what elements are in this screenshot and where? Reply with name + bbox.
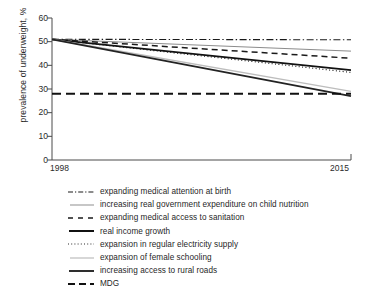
- legend-item: expanding medical attention at birth: [68, 185, 368, 198]
- light-gray-line-swatch: [68, 252, 94, 264]
- legend-label: increasing real government expenditure o…: [100, 200, 309, 209]
- legend-item: MDG: [68, 277, 368, 289]
- legend-label: expanding medical attention at birth: [100, 187, 231, 196]
- thick-solid-line-swatch: [68, 225, 94, 237]
- data-series-group: [52, 39, 351, 96]
- legend-label: expanding medical access to sanitation: [100, 213, 244, 222]
- legend-label: expansion in regular electricity supply: [100, 240, 238, 249]
- legend-label: increasing access to rural roads: [100, 266, 217, 275]
- legend-item: expansion of female schooling: [68, 251, 368, 264]
- legend-label: MDG: [100, 279, 119, 288]
- legend-label: real income growth: [100, 227, 170, 236]
- chart-canvas: [0, 0, 369, 180]
- dotted-line-swatch: [68, 238, 94, 250]
- chart-figure: prevalence of underweight, % 60 50 40 30…: [0, 0, 369, 289]
- legend-item: increasing real government expenditure o…: [68, 198, 368, 211]
- legend-item: expanding medical access to sanitation: [68, 211, 368, 224]
- legend-item: expansion in regular electricity supply: [68, 238, 368, 251]
- dashed-line-swatch: [68, 212, 94, 224]
- plot-area: prevalence of underweight, % 60 50 40 30…: [0, 0, 369, 180]
- long-dash-line-swatch: [68, 278, 94, 289]
- series-line: [52, 39, 351, 51]
- solid-line-swatch: [68, 265, 94, 277]
- dash-dot-line-swatch: [68, 186, 94, 198]
- y-axis-tick-marks: [47, 18, 52, 160]
- legend-item: increasing access to rural roads: [68, 264, 368, 277]
- thin-gray-line-swatch: [68, 199, 94, 211]
- chart-legend: expanding medical attention at birth inc…: [68, 185, 368, 289]
- legend-item: real income growth: [68, 225, 368, 238]
- legend-label: expansion of female schooling: [100, 253, 212, 262]
